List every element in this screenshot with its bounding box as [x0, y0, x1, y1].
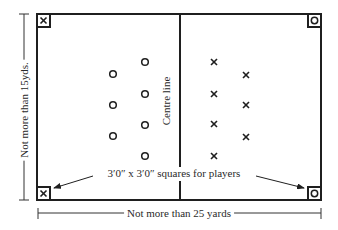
arrow-to-bottom-right-square [256, 176, 304, 188]
player-circle-icon [142, 91, 149, 98]
player-cross-icon [243, 72, 249, 78]
arrow-to-bottom-left-square [54, 176, 93, 188]
player-circle-icon [110, 133, 117, 140]
pitch-diagram: Centre line Not more than 15yds. Not mor… [0, 0, 338, 230]
player-cross-icon [243, 134, 249, 140]
corner-square-bottom-right [308, 187, 321, 200]
player-cross-icon [211, 91, 217, 97]
width-dimension-label: Not more than 15yds. [19, 59, 30, 160]
player-circle-icon [142, 122, 149, 129]
player-circle-icon [110, 71, 117, 78]
player-cross-icon [211, 59, 217, 65]
player-circle-icon [142, 59, 149, 66]
player-circle-icon [110, 102, 117, 109]
centre-line-label: Centre line [161, 77, 172, 126]
squares-annotation: 3′0″ x 3′0″ squares for players [105, 168, 244, 179]
player-cross-icon [211, 153, 217, 159]
player-circle-icon [142, 153, 149, 160]
corner-square-top-left [37, 14, 50, 27]
player-cross-icon [243, 102, 249, 108]
circle-team-players [110, 59, 149, 160]
cross-team-players [211, 59, 249, 159]
length-dimension-label: Not more than 25 yards [124, 208, 234, 219]
player-cross-icon [211, 121, 217, 127]
corner-square-bottom-left [37, 187, 50, 200]
corner-square-top-right [308, 14, 321, 27]
